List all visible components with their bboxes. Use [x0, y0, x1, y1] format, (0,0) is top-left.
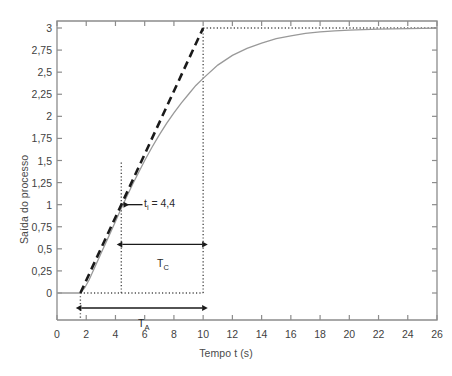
x-tick-label: 10 [197, 328, 209, 340]
x-tick-label: 16 [285, 328, 297, 340]
annotation-ta: TA [138, 317, 149, 332]
annotation-tc: TC [157, 257, 169, 272]
y-tick-label: 0,75 [10, 221, 52, 233]
x-tick-label: 18 [314, 328, 326, 340]
y-tick-label: 2,25 [10, 88, 52, 100]
guide-lines [80, 28, 437, 318]
annotation-ti: ti = 4,4 [144, 197, 175, 212]
data-series [57, 28, 437, 293]
annotation-tc-sub: C [164, 263, 169, 272]
x-tick-label: 2 [83, 328, 89, 340]
x-tick-label: 22 [373, 328, 385, 340]
chart-container: Saída do processo Tempo t (s) 00,250,50,… [0, 0, 452, 376]
x-tick-label: 12 [227, 328, 239, 340]
x-tick-label: 0 [54, 328, 60, 340]
chart-plot-area [0, 0, 452, 376]
y-tick-label: 1,25 [10, 177, 52, 189]
x-axis-title: Tempo t (s) [0, 347, 452, 359]
x-tick-label: 8 [171, 328, 177, 340]
x-tick-label: 14 [256, 328, 268, 340]
y-tick-label: 2 [10, 110, 52, 122]
y-tick-label: 1 [10, 199, 52, 211]
y-tick-label: 1,75 [10, 132, 52, 144]
series-tangent [80, 28, 203, 293]
x-tick-label: 24 [402, 328, 414, 340]
series-response [57, 28, 437, 293]
y-tick-label: 3 [10, 22, 52, 34]
axis-ticks [57, 21, 437, 320]
y-tick-label: 2,75 [10, 44, 52, 56]
x-tick-label: 20 [343, 328, 355, 340]
y-tick-label: 0,5 [10, 243, 52, 255]
annotation-ta-sub: A [145, 323, 150, 332]
y-tick-label: 0 [10, 287, 52, 299]
annotation-ti-value: = 4,4 [149, 197, 176, 209]
x-tick-label: 26 [431, 328, 443, 340]
axis-frame [57, 21, 437, 320]
x-tick-label: 4 [113, 328, 119, 340]
y-tick-label: 0,25 [10, 265, 52, 277]
y-tick-label: 2,5 [10, 66, 52, 78]
y-tick-label: 1,5 [10, 155, 52, 167]
